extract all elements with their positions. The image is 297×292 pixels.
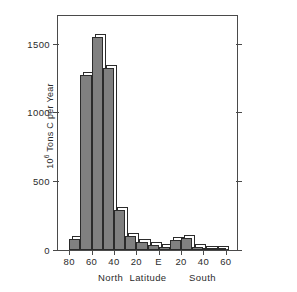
latitude-carbon-histogram: 106 Tons C per Year 050010001500 8060402…	[0, 0, 297, 292]
bar	[159, 247, 170, 250]
y-axis-title: 106 Tons C per Year	[43, 83, 55, 169]
y-axis-title-base: 10	[45, 158, 55, 169]
y-axis-tick-right	[236, 44, 242, 45]
x-axis-title: Latitude	[129, 272, 166, 283]
hemisphere-label-south: South	[189, 272, 216, 283]
y-axis-tick-label: 1000	[27, 107, 50, 118]
plot-area	[58, 16, 237, 250]
bar	[215, 248, 226, 250]
bar	[92, 37, 103, 250]
x-axis-tick-label: 80	[64, 256, 75, 267]
y-axis-tick-label: 500	[33, 176, 50, 187]
bar	[125, 236, 136, 250]
y-axis-tick-right	[236, 250, 242, 251]
y-axis-tick-label: 0	[44, 245, 50, 256]
x-axis-tick-label: 20	[175, 256, 186, 267]
y-axis-title-rest: Tons C per Year	[45, 83, 55, 154]
bar	[69, 239, 80, 250]
x-axis-tick-label: 20	[131, 256, 142, 267]
bar	[114, 210, 125, 250]
bar	[203, 248, 214, 250]
y-axis-tick	[53, 181, 59, 182]
x-axis-tick-label: 40	[198, 256, 209, 267]
y-axis-tick	[53, 250, 59, 251]
x-axis-tick-label: 60	[220, 256, 231, 267]
y-axis-tick-label: 1500	[27, 38, 50, 49]
x-axis-tick	[226, 249, 227, 255]
bar	[136, 242, 147, 250]
plot-frame: 050010001500 80604020E204060	[57, 15, 238, 251]
x-axis-tick-label: 60	[86, 256, 97, 267]
bar	[181, 238, 192, 250]
y-axis-title-exponent: 6	[43, 154, 50, 158]
y-axis-tick	[53, 44, 59, 45]
bar	[80, 75, 91, 251]
bar	[170, 240, 181, 250]
y-axis-tick-right	[236, 181, 242, 182]
y-axis-tick	[53, 112, 59, 113]
x-axis-tick-label: 40	[108, 256, 119, 267]
bar	[192, 247, 203, 250]
bar	[148, 245, 159, 250]
bar	[103, 68, 114, 250]
hemisphere-label-north: North	[98, 272, 123, 283]
y-axis-tick-right	[236, 112, 242, 113]
x-axis-tick-label: E	[155, 256, 162, 267]
